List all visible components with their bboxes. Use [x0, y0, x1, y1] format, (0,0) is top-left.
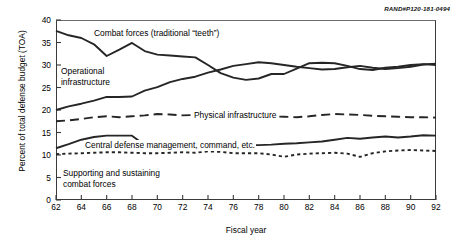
y-tick-label: 15	[25, 129, 51, 137]
x-tick-label: 74	[198, 203, 218, 211]
x-tick-label: 84	[325, 203, 345, 211]
series-label-physical-infrastructure: Physical infrastructure	[193, 110, 277, 121]
x-tick-label: 68	[122, 203, 142, 211]
x-tick-label: 72	[173, 203, 193, 211]
y-tick-label: 10	[25, 151, 51, 159]
x-tick-label: 76	[223, 203, 243, 211]
x-tick-label: 88	[375, 203, 395, 211]
x-tick-label: 64	[71, 203, 91, 211]
series-label-operational-line1: Operational	[61, 66, 104, 76]
series-label-operational-line2: infrastructure	[61, 77, 110, 87]
figure-root: RAND#P120-181-0494 Percent of total defe…	[0, 0, 460, 248]
x-tick-label: 86	[350, 203, 370, 211]
x-tick-label: 78	[249, 203, 269, 211]
series-label-supporting-sustaining: Supporting and sustaining combat forces	[62, 168, 161, 189]
series-line	[56, 150, 436, 157]
series-label-operational-infrastructure: Operational infrastructure	[60, 66, 111, 87]
y-tick-label: 35	[25, 39, 51, 47]
y-tick-label: 40	[25, 16, 51, 24]
x-tick-label: 66	[97, 203, 117, 211]
series-label-supporting-line1: Supporting and sustaining	[63, 168, 160, 178]
x-tick-label: 62	[46, 203, 66, 211]
x-tick-label: 80	[274, 203, 294, 211]
y-tick-label: 20	[25, 106, 51, 114]
x-tick-label: 82	[299, 203, 319, 211]
y-tick-label: 5	[25, 174, 51, 182]
x-tick-label: 92	[426, 203, 446, 211]
x-tick-label: 70	[147, 203, 167, 211]
y-tick-label: 25	[25, 84, 51, 92]
x-axis-title: Fiscal year	[56, 225, 436, 235]
series-label-combat-forces: Combat forces (traditional “teeth”)	[93, 28, 220, 39]
x-tick-label: 90	[401, 203, 421, 211]
series-label-supporting-line2: combat forces	[63, 179, 116, 189]
series-label-central-defense-management: Central defense management, command, etc…	[84, 140, 256, 151]
y-tick-label: 30	[25, 61, 51, 69]
